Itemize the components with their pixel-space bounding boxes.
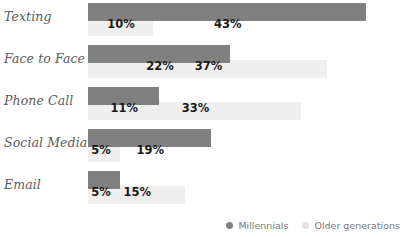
legend-label-millennials: Millennials [238,220,288,231]
value-label-millennials-social-media: 19% [136,142,164,158]
category-label-email: Email [4,177,84,192]
plot-area: Texting 43% 10% Face to Face 22% 37% Pho… [0,0,408,212]
value-label-millennials-texting: 43% [214,16,242,32]
legend-swatch-millennials-icon [226,222,233,229]
value-label-millennials-email: 5% [91,184,111,200]
category-label-phone-call: Phone Call [4,93,84,108]
chart-row-social-media: Social Media 19% 5% [0,126,408,168]
legend-item-older-generations[interactable]: Older generations [302,220,400,231]
legend-swatch-older-generations-icon [302,222,309,229]
legend-item-millennials[interactable]: Millennials [226,220,288,231]
bar-chart: Texting 43% 10% Face to Face 22% 37% Pho… [0,0,408,237]
value-label-older-face-to-face: 37% [195,58,223,74]
chart-row-texting: Texting 43% 10% [0,0,408,42]
value-label-older-email: 15% [124,184,152,200]
chart-row-face-to-face: Face to Face 22% 37% [0,42,408,84]
value-label-millennials-phone-call: 11% [111,100,139,116]
value-label-older-social-media: 5% [91,142,111,158]
value-label-millennials-face-to-face: 22% [146,58,174,74]
category-label-face-to-face: Face to Face [4,51,84,66]
legend-label-older-generations: Older generations [314,220,400,231]
value-label-older-texting: 10% [107,16,135,32]
category-label-texting: Texting [4,9,84,24]
value-label-older-phone-call: 33% [182,100,210,116]
chart-legend: Millennials Older generations [0,216,408,234]
chart-row-phone-call: Phone Call 11% 33% [0,84,408,126]
chart-row-email: Email 5% 15% [0,168,408,210]
category-label-social-media: Social Media [4,135,84,150]
